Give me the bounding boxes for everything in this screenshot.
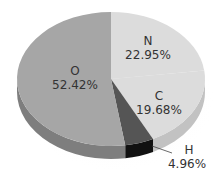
slice-value-n: 22.95% — [125, 48, 171, 62]
slice-label-h: H — [184, 143, 193, 157]
slice-label-o: O — [70, 64, 79, 78]
slice-value-o: 52.42% — [52, 78, 98, 92]
slice-label-n: N — [144, 34, 153, 48]
slice-value-c: 19.68% — [136, 103, 182, 117]
slice-n — [111, 12, 204, 79]
pie-chart: O 52.42% N 22.95% C 19.68% H 4.96% — [0, 0, 218, 179]
slice-value-h: 4.96% — [168, 157, 206, 171]
pie-top — [17, 12, 205, 146]
slice-label-c: C — [155, 89, 163, 103]
